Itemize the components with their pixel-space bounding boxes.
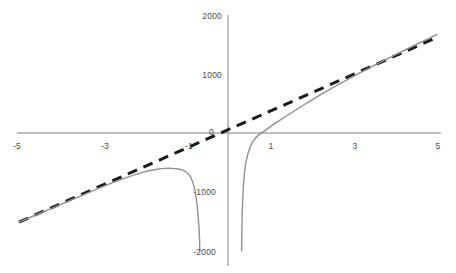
x-tick-label-neg3: -3: [93, 141, 117, 151]
plot-canvas: [0, 0, 456, 273]
y-tick-label-neg2000: -2000: [170, 247, 216, 257]
chart-figure: 2000 1000 0 -1000 -2000 -5 -3 -1 1 3 5: [0, 0, 456, 273]
y-tick-label-0: 0: [178, 127, 214, 137]
x-tick-label-1: 1: [259, 141, 283, 151]
y-tick-label-neg1000: -1000: [170, 187, 216, 197]
x-tick-label-3: 3: [343, 141, 367, 151]
y-tick-label-1000: 1000: [178, 70, 222, 80]
y-tick-label-2000: 2000: [178, 11, 222, 21]
x-tick-label-5: 5: [426, 141, 450, 151]
curve-left-branch: [19, 168, 200, 251]
x-tick-label-neg5: -5: [5, 141, 29, 151]
x-tick-label-neg1: -1: [177, 141, 201, 151]
